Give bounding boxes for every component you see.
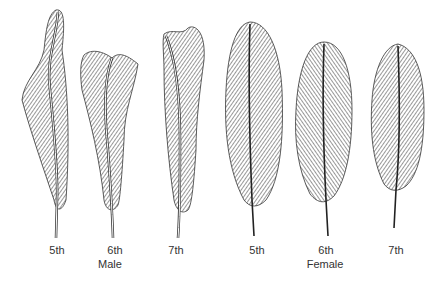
label-female-5th: 5th xyxy=(249,244,264,256)
feather-male-7th xyxy=(163,27,204,238)
feather-female-5th xyxy=(226,22,283,236)
feather-male-6th xyxy=(81,51,138,238)
group-label-male: Male xyxy=(98,258,122,270)
feather-female-7th xyxy=(371,44,424,228)
label-female-7th: 7th xyxy=(388,244,403,256)
label-male-6th: 6th xyxy=(107,244,122,256)
label-female-6th: 6th xyxy=(318,244,333,256)
feather-male-5th xyxy=(22,10,68,238)
feather-female-6th xyxy=(296,42,352,236)
feather-illustration xyxy=(0,0,443,289)
label-male-5th: 5th xyxy=(49,244,64,256)
group-label-female: Female xyxy=(307,258,344,270)
label-male-7th: 7th xyxy=(168,244,183,256)
